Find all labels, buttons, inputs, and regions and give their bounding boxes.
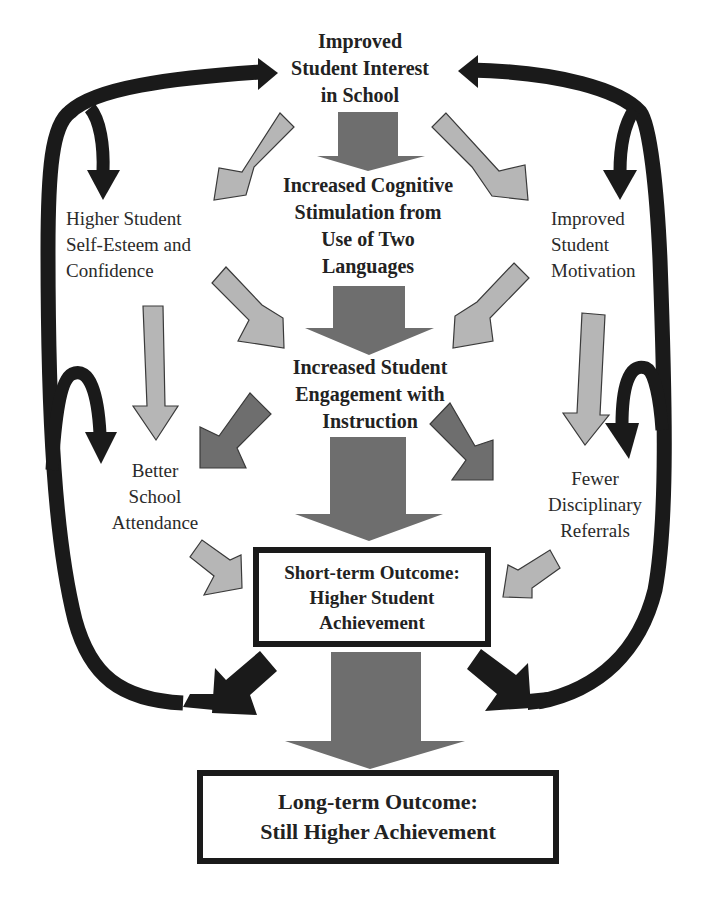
feedback-tail-left [183, 694, 214, 710]
node-line: Attendance [95, 510, 215, 536]
node-line: Stimulation from [258, 199, 478, 226]
feedback-loop-right-outer [470, 70, 664, 702]
node-student-interest: Improved Student Interest in School [240, 28, 480, 109]
node-student-motivation: Improved Student Motivation [551, 206, 671, 284]
feedback-branch-motivation [620, 110, 634, 172]
node-line: Instruction [260, 408, 480, 435]
secondary-arrow-referrals-to-short-term [503, 550, 560, 598]
secondary-arrow-self-esteem-to-attendance [133, 306, 178, 440]
feedback-arrowhead-self-esteem [87, 170, 120, 200]
node-line: Student Interest [240, 55, 480, 82]
feedback-tail-right [528, 692, 548, 710]
main-arrow-engagement-to-short-term [295, 437, 443, 541]
box-line: Achievement [319, 610, 425, 635]
main-arrow-cognitive-to-engagement [305, 286, 434, 355]
feedback-arrowhead-referrals [605, 423, 639, 459]
box-line: Still Higher Achievement [260, 817, 495, 847]
node-line: School [95, 484, 215, 510]
logic-model-diagram: Improved Student Interest in School Incr… [0, 0, 720, 908]
node-line: Student [551, 232, 671, 258]
feedback-block-arrow-left [212, 651, 277, 715]
node-disciplinary-referrals: Fewer Disciplinary Referrals [530, 466, 660, 544]
node-line: Confidence [66, 258, 226, 284]
feedback-loop-referrals [622, 367, 662, 430]
node-cognitive-stimulation: Increased Cognitive Stimulation from Use… [258, 172, 478, 280]
node-line: Fewer [530, 466, 660, 492]
main-arrow-short-to-long-term [285, 652, 465, 769]
short-term-outcome-box: Short-term Outcome: Higher Student Achie… [253, 547, 491, 647]
secondary-arrow-attendance-to-short-term [190, 540, 242, 595]
feedback-arrowhead-motivation [603, 170, 637, 200]
node-line: Better [95, 458, 215, 484]
node-line: Engagement with [260, 381, 480, 408]
node-line: Increased Student [260, 354, 480, 381]
box-line: Higher Student [310, 585, 435, 610]
feedback-block-arrow-right [467, 649, 531, 711]
node-line: Referrals [530, 518, 660, 544]
feedback-loop-attendance [52, 373, 100, 470]
node-self-esteem: Higher Student Self-Esteem and Confidenc… [66, 206, 226, 284]
node-line: Higher Student [66, 206, 226, 232]
long-term-outcome-box: Long-term Outcome: Still Higher Achievem… [197, 770, 559, 864]
feedback-branch-self-esteem [90, 108, 103, 172]
node-line: Improved [240, 28, 480, 55]
box-line: Short-term Outcome: [284, 560, 460, 585]
node-line: Disciplinary [530, 492, 660, 518]
box-line: Long-term Outcome: [278, 787, 478, 817]
node-line: Languages [258, 253, 478, 280]
secondary-arrow-motivation-to-referrals [563, 313, 609, 445]
node-line: Use of Two [258, 226, 478, 253]
node-student-engagement: Increased Student Engagement with Instru… [260, 354, 480, 435]
node-school-attendance: Better School Attendance [95, 458, 215, 536]
node-line: Improved [551, 206, 671, 232]
node-line: Motivation [551, 258, 671, 284]
node-line: Self-Esteem and [66, 232, 226, 258]
node-line: in School [240, 82, 480, 109]
main-arrow-interest-to-cognitive [317, 112, 425, 171]
node-line: Increased Cognitive [258, 172, 478, 199]
